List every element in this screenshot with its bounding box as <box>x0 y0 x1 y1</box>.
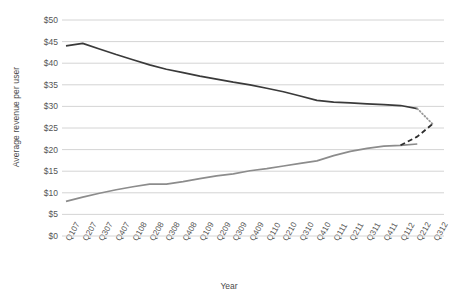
plot-area <box>62 0 448 305</box>
chart-container: Average revenue per user Year $0$5$10$15… <box>0 0 458 305</box>
series-line-declining-revenue-series <box>66 43 417 108</box>
series-line-rising-revenue-projection <box>401 123 434 145</box>
chart-svg <box>62 0 448 305</box>
series-line-declining-revenue-projection <box>417 109 434 126</box>
